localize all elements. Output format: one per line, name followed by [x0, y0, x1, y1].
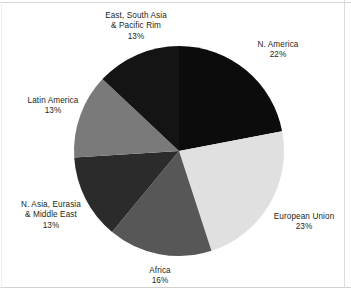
pie-slice-group [74, 46, 284, 256]
pie-label-africa: Africa 16% [122, 266, 198, 287]
pie-label-n-asia-eurasia: N. Asia, Eurasia & Middle East 13% [2, 200, 100, 231]
chart-canvas: East, South Asia & Pacific Rim 13% N. Am… [0, 0, 351, 303]
pie-label-africa-line1: Africa [122, 266, 198, 276]
pie-label-latin-america-line1: Latin America [10, 96, 96, 106]
pie-label-european-union-percent: 23% [258, 222, 350, 232]
pie-label-n-asia-eurasia-line2: & Middle East [2, 210, 100, 220]
pie-label-n-america-percent: 22% [228, 50, 328, 60]
pie-label-latin-america-percent: 13% [10, 106, 96, 116]
pie-label-latin-america: Latin America 13% [10, 96, 96, 117]
pie-label-n-america-line1: N. America [228, 40, 328, 50]
pie-label-africa-percent: 16% [122, 276, 198, 286]
pie-label-n-asia-eurasia-line1: N. Asia, Eurasia [2, 200, 100, 210]
pie-label-east-south-asia-line2: & Pacific Rim [78, 21, 194, 31]
pie-label-east-south-asia-line1: East, South Asia [78, 11, 194, 21]
pie-label-european-union: European Union 23% [258, 212, 350, 233]
pie-label-european-union-line1: European Union [258, 212, 350, 222]
pie-label-n-asia-eurasia-percent: 13% [2, 221, 100, 231]
pie-label-n-america: N. America 22% [228, 40, 328, 61]
pie-label-east-south-asia-percent: 13% [78, 32, 194, 42]
pie-label-east-south-asia: East, South Asia & Pacific Rim 13% [78, 11, 194, 42]
